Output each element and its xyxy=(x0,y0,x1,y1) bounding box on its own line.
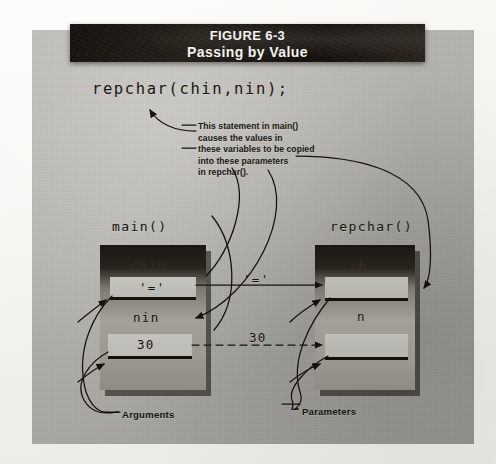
variable-label-nin: nin xyxy=(133,310,159,325)
code-statement: repchar(chin,nin); xyxy=(92,80,289,98)
parameter-cell-n xyxy=(325,334,408,360)
annotation-line-1: This statement in main() xyxy=(198,121,316,133)
variable-value-chin: '=' xyxy=(139,280,165,295)
parameter-cell-ch xyxy=(325,277,408,301)
frame-caption-main: main() xyxy=(112,219,167,234)
annotation-line-2: causes the values in xyxy=(198,133,316,145)
parameter-label-ch: ch xyxy=(350,258,368,273)
variable-label-chin: chin xyxy=(131,258,166,273)
figure-number: FIGURE 6-3 xyxy=(70,24,425,44)
annotation-line-4: into these parameters xyxy=(198,156,316,168)
frame-caption-repchar: repchar() xyxy=(330,219,413,234)
annotation-line-3: these variables to be copied xyxy=(198,144,316,156)
transfer-value-int: 30 xyxy=(249,330,267,345)
variable-value-nin: 30 xyxy=(137,337,155,352)
caption-arguments: Arguments xyxy=(122,409,174,420)
caption-parameters: Parameters xyxy=(302,406,356,417)
parameter-label-n: n xyxy=(357,309,366,324)
annotation-text: This statement in main() causes the valu… xyxy=(198,121,316,179)
figure-header-band: FIGURE 6-3 Passing by Value xyxy=(70,24,425,62)
figure-title: Passing by Value xyxy=(70,44,425,61)
transfer-value-char: '=' xyxy=(243,272,269,287)
annotation-line-5: in repchar(). xyxy=(198,167,316,179)
scanned-page: FIGURE 6-3 Passing by Value repchar(chin… xyxy=(0,0,496,464)
